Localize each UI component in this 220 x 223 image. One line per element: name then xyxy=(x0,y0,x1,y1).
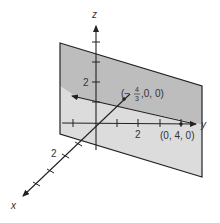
z-tick-label-2: 2 xyxy=(83,77,89,88)
x-intercept-label-denominator: 3 xyxy=(135,95,139,102)
z-axis-label: z xyxy=(91,9,97,20)
y-intercept-label: (0, 4, 0) xyxy=(160,130,194,141)
x-intercept-label-suffix: ,0, 0) xyxy=(141,88,164,99)
x-axis-label: x xyxy=(10,200,17,211)
x-tick-label-2: 2 xyxy=(51,148,57,159)
y-tick-label-2: 2 xyxy=(135,129,141,140)
3d-plane-diagram: z y x 2 2 2 (− 4 3 ,0, 0) (0, 4, 0) xyxy=(0,0,220,223)
y-axis-label: y xyxy=(200,119,207,130)
x-intercept-label-numerator: 4 xyxy=(135,86,139,93)
y-intercept-point xyxy=(179,122,183,126)
x-intercept-label-prefix: (− xyxy=(121,88,130,99)
